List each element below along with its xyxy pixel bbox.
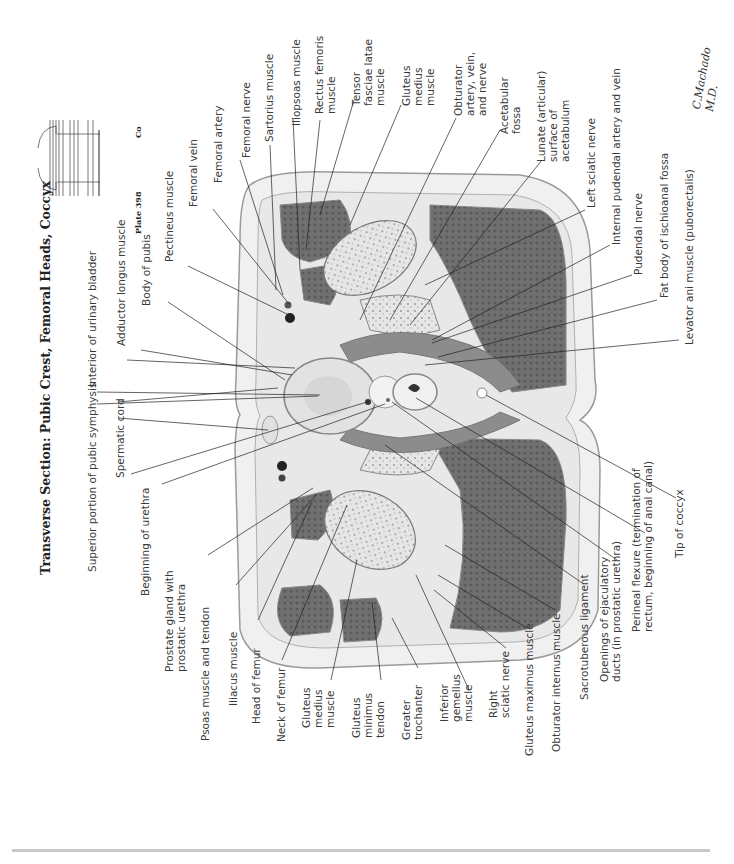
label-beginning-of-urethra: Beginning of urethra — [139, 488, 151, 596]
plate-number: Plate 398 — [133, 191, 143, 234]
label-fat-body-ischioanal-fossa: Fat body of ischioanal fossa — [658, 153, 670, 298]
anatomy-plate: Transverse Section: Pubic Crest, Femoral… — [0, 0, 734, 864]
label-gluteus-medius-muscle-top: Gluteus medius muscle — [400, 66, 436, 106]
label-inferior-gemellus-muscle: Inferior gemellus muscle — [438, 674, 474, 722]
label-superior-portion-pubic-symphysis: Superior portion of pubic symphysis — [86, 383, 98, 572]
label-openings-ejaculatory-ducts: Openings of ejaculatory ducts (in prosta… — [598, 541, 622, 682]
label-gluteus-minimus-tendon: Gluteus minimus tendon — [350, 693, 386, 738]
label-interior-urinary-bladder: Interior of urinary bladder — [86, 251, 98, 387]
label-adductor-longus-muscle: Adductor longus muscle — [115, 219, 127, 346]
label-body-of-pubis: Body of pubis — [140, 234, 152, 306]
label-spermatic-cord: Spermatic cord — [114, 398, 126, 478]
label-femoral-nerve: Femoral nerve — [240, 82, 252, 158]
label-obturator-artery-vein-nerve: Obturator artery, vein, and nerve — [452, 52, 488, 116]
label-right-sciatic-nerve: Right sciatic nerve — [487, 651, 511, 718]
label-iliopsoas-muscle: Iliopsoas muscle — [290, 39, 302, 126]
label-tensor-fasciae-latae-muscle: Tensor fasciae latae muscle — [350, 39, 386, 106]
label-prostate-gland: Prostate gland with prostatic urethra — [163, 570, 187, 672]
label-pudendal-nerve: Pudendal nerve — [632, 193, 644, 275]
label-gluteus-maximus-muscle: Gluteus maximus muscle — [523, 623, 535, 756]
level-marker: Co — [133, 126, 143, 138]
page-bottom-rule — [12, 849, 710, 852]
label-pectineus-muscle: Pectineus muscle — [163, 171, 175, 262]
label-lunate-surface-acetabulum: Lunate (articular) surface of acetabulum — [535, 71, 571, 162]
label-head-of-femur: Head of femur — [250, 648, 262, 724]
label-greater-trochanter: Greater trochanter — [400, 685, 424, 740]
label-internal-pudendal-artery-vein: Internal pudendal artery and vein — [610, 68, 622, 245]
label-iliacus-muscle: Iliacus muscle — [227, 632, 239, 706]
label-gluteus-medius-muscle-bottom: Gluteus medius muscle — [300, 688, 336, 728]
plate-title: Transverse Section: Pubic Crest, Femoral… — [38, 181, 53, 575]
label-perineal-flexure: Perineal flexure (termination of rectum,… — [630, 461, 654, 632]
label-obturator-internus-muscle: Obturator internus muscle — [550, 613, 562, 752]
label-left-sciatic-nerve: Left sciatic nerve — [585, 118, 597, 208]
label-tip-of-coccyx: Tip of coccyx — [673, 489, 685, 558]
label-femoral-artery: Femoral artery — [212, 106, 224, 183]
label-femoral-vein: Femoral vein — [187, 139, 199, 207]
label-sartorius-muscle: Sartorius muscle — [263, 54, 275, 142]
label-acetabular-fossa: Acetabular fossa — [498, 77, 522, 134]
label-sacrotuberous-ligament: Sacrotuberous ligament — [578, 574, 590, 700]
label-levator-ani-muscle: Levator ani muscle (puborectalis) — [683, 169, 695, 345]
label-rectus-femoris-muscle: Rectus femoris muscle — [313, 36, 337, 114]
label-neck-of-femur: Neck of femur — [275, 668, 287, 742]
label-psoas-muscle-tendon: Psoas muscle and tendon — [199, 607, 211, 741]
